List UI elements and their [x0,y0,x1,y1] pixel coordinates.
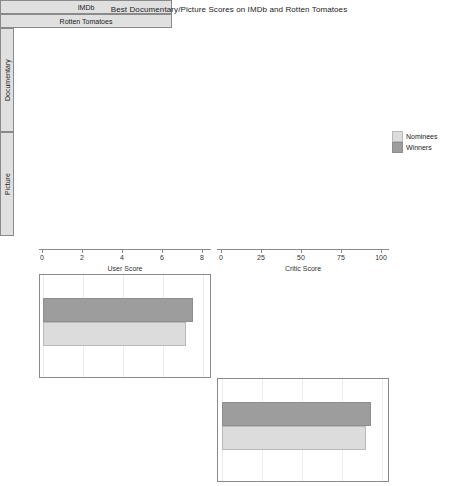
legend-item-nominees[interactable]: Nominees [392,131,438,142]
panel-documentary-rotten-tomatoes [217,378,389,482]
legend-label-nominees: Nominees [406,133,438,140]
gridline [382,379,383,481]
x-axis-right-line [217,249,389,250]
x-axis-right-tick-label: 100 [369,254,393,261]
bar-nominees [222,426,366,450]
x-axis-right-title: Critic Score [243,265,363,272]
x-axis-left-tick [162,249,163,253]
legend-swatch-winners [392,142,403,153]
row-strip-picture-label: Picture [4,173,11,195]
x-axis-right-tick [221,249,222,253]
x-axis-left-tick [82,249,83,253]
gridline [203,275,204,377]
x-axis-right-tick-label: 0 [209,254,233,261]
x-axis-right-tick [381,249,382,253]
x-axis-left-title: User Score [65,265,185,272]
x-axis-right-tick-label: 50 [289,254,313,261]
panel-documentary-imdb [39,274,211,378]
chart-title: Best Documentary/Picture Scores on IMDb … [0,5,458,14]
x-axis-left-tick-label: 4 [110,254,134,261]
x-axis-right-tick [341,249,342,253]
legend-label-winners: Winners [406,144,432,151]
legend-swatch-nominees [392,131,403,142]
bar-winners [222,402,371,426]
x-axis-left-tick-label: 2 [70,254,94,261]
x-axis-left-line [39,249,211,250]
legend-item-winners[interactable]: Winners [392,142,438,153]
x-axis-right-tick [301,249,302,253]
legend: Nominees Winners [392,131,438,153]
x-axis-right-tick-label: 25 [249,254,273,261]
row-strip-documentary: Documentary [0,28,14,132]
bar-winners [43,298,193,322]
x-axis-left-tick [202,249,203,253]
bar-nominees [43,322,186,346]
row-strip-picture: Picture [0,132,14,236]
row-strip-documentary-label: Documentary [4,59,11,101]
x-axis-right-tick [261,249,262,253]
x-axis-left-tick-label: 6 [150,254,174,261]
column-strip-rotten-tomatoes-label: Rotten Tomatoes [60,18,113,25]
x-axis-left-tick-label: 0 [30,254,54,261]
x-axis-left-tick [122,249,123,253]
x-axis-right-tick-label: 75 [329,254,353,261]
column-strip-rotten-tomatoes: Rotten Tomatoes [0,14,172,28]
x-axis-left-tick [42,249,43,253]
